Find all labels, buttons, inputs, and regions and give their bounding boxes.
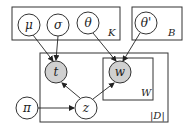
edge-mu-t xyxy=(33,35,53,61)
plate-w-label: W xyxy=(141,87,152,98)
node-w-label: w xyxy=(115,65,126,79)
plate-k-label: K xyxy=(107,27,116,38)
node-pi-label: π xyxy=(22,101,32,115)
node-w: w xyxy=(109,61,131,83)
node-mu: μ xyxy=(18,14,40,36)
node-theta-prime-label: θ' xyxy=(141,16,152,30)
node-sigma-label: σ xyxy=(54,18,63,32)
node-mu-label: μ xyxy=(25,18,33,32)
node-theta-label: θ xyxy=(84,16,92,30)
plate-diagram: K B W |D| μ σ θ θ' t w π z xyxy=(0,0,190,129)
node-theta: θ xyxy=(77,12,99,34)
node-z-label: z xyxy=(82,101,90,115)
node-t-label: t xyxy=(54,65,59,79)
node-theta-prime: θ' xyxy=(135,12,157,34)
node-pi: π xyxy=(16,97,38,119)
plate-b-label: B xyxy=(167,27,175,38)
edge-z-t xyxy=(62,83,80,98)
plate-d-label: |D| xyxy=(150,110,165,122)
node-sigma: σ xyxy=(47,14,69,36)
node-z: z xyxy=(75,97,97,119)
node-t: t xyxy=(45,61,67,83)
